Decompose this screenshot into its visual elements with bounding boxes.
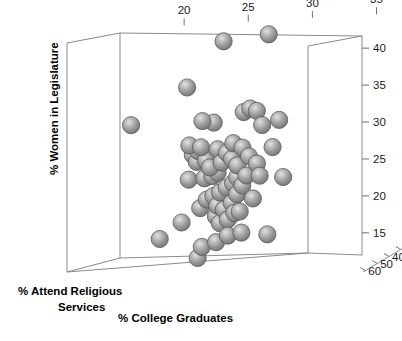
scatter-plot-3d: 20253035 403530252015 2030405060 % Colle… xyxy=(0,0,402,341)
axis-titles: % College Graduates % Women in Legislatu… xyxy=(0,0,402,341)
x-axis-title: % College Graduates xyxy=(118,312,233,324)
z-axis-title-line1: % Attend Religious xyxy=(18,285,122,297)
z-axis-title-line2: Services xyxy=(58,301,105,313)
y-axis-title: % Women in Legislature xyxy=(48,42,60,175)
